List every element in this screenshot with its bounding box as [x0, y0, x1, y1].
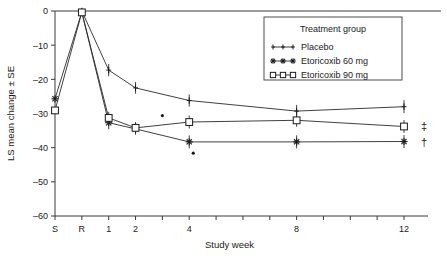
y-tick-label: –40 — [33, 143, 48, 153]
legend-item-label: Etoricoxib 60 mg — [301, 56, 368, 66]
y-tick-label: –10 — [33, 41, 48, 51]
chart-figure: 0–10–20–30–40–50–60SR124812Study weekLS … — [0, 0, 447, 260]
stray-dot-2 — [192, 152, 195, 155]
marker-open-square — [401, 123, 408, 130]
dagger: † — [421, 136, 427, 148]
legend: Treatment groupPlaceboEtoricoxib 60 mgEt… — [264, 17, 402, 80]
y-tick-label: –20 — [33, 75, 48, 85]
y-tick-label: 0 — [43, 6, 48, 16]
marker-open-square — [78, 9, 85, 16]
legend-item-label: Placebo — [301, 42, 334, 52]
marker-open-square — [270, 72, 275, 77]
legend-title: Treatment group — [300, 24, 366, 34]
y-tick-label: –50 — [33, 177, 48, 187]
marker-open-square — [293, 117, 300, 124]
y-tick-label: –60 — [33, 211, 48, 221]
marker-open-square — [105, 115, 112, 122]
marker-open-square — [132, 124, 139, 131]
x-tick-label: 8 — [294, 224, 299, 234]
double-dagger: ‡ — [421, 120, 427, 132]
y-tick-label: –30 — [33, 109, 48, 119]
x-axis-title: Study week — [205, 239, 254, 250]
margin-significance-markers: ‡† — [421, 120, 427, 147]
x-tick-label: 1 — [106, 224, 111, 234]
x-tick-label: 12 — [399, 224, 409, 234]
legend-item-label: Etoricoxib 90 mg — [301, 70, 368, 80]
marker-open-square — [52, 107, 59, 114]
x-axis-ticks: SR124812 — [52, 216, 409, 234]
y-axis-title: LS mean change ± SE — [5, 66, 16, 161]
marker-open-square — [290, 72, 295, 77]
x-tick-label: 4 — [187, 224, 192, 234]
x-tick-label: R — [79, 224, 86, 234]
x-tick-label: S — [52, 224, 58, 234]
marker-open-square — [280, 72, 285, 77]
x-tick-label: 2 — [133, 224, 138, 234]
marker-open-square — [186, 119, 193, 126]
line-chart: 0–10–20–30–40–50–60SR124812Study weekLS … — [0, 0, 447, 260]
stray-dot-1 — [161, 114, 164, 117]
